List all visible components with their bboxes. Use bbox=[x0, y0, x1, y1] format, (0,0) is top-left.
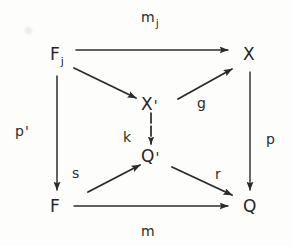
edge-label-m-base: m bbox=[141, 223, 155, 239]
node-X-prime: X' bbox=[141, 96, 158, 113]
edge-label-k-base: k bbox=[123, 129, 131, 145]
node-X-prime-base: X bbox=[141, 94, 153, 114]
arrow-r bbox=[172, 167, 232, 195]
node-X-base: X bbox=[243, 44, 255, 64]
node-F: F bbox=[50, 198, 60, 215]
edge-label-m: m bbox=[141, 224, 155, 238]
node-F-sub-j: Fj bbox=[50, 46, 64, 67]
edge-label-r-base: r bbox=[215, 166, 221, 182]
edge-label-mj: mj bbox=[141, 10, 159, 29]
node-Q: Q bbox=[243, 198, 256, 215]
node-X-prime-mark: ' bbox=[153, 97, 158, 113]
edge-label-p: p bbox=[266, 132, 275, 146]
edge-label-p-prime: p' bbox=[15, 124, 29, 138]
edge-label-s: s bbox=[72, 166, 79, 180]
arrow-fj-to-xprime bbox=[74, 68, 136, 98]
edge-label-mj-base: m bbox=[141, 9, 155, 25]
node-F-sub-j-base: F bbox=[50, 44, 60, 64]
arrow-s bbox=[88, 165, 140, 192]
node-Q-prime-base: Q bbox=[141, 146, 154, 166]
edge-label-p-prime-mark: ' bbox=[24, 123, 29, 139]
node-Q-prime: Q' bbox=[141, 148, 159, 165]
edge-label-g: g bbox=[197, 96, 206, 110]
edge-label-p-base: p bbox=[266, 131, 275, 147]
node-F-sub-j-subscript: j bbox=[60, 55, 64, 68]
edge-label-p-prime-base: p bbox=[15, 123, 24, 139]
edge-label-mj-subscript: j bbox=[155, 17, 159, 30]
edge-label-g-base: g bbox=[197, 95, 206, 111]
edge-label-k: k bbox=[123, 130, 131, 144]
node-Q-base: Q bbox=[243, 196, 256, 216]
node-X: X bbox=[243, 46, 255, 63]
node-Q-prime-mark: ' bbox=[154, 149, 159, 165]
commutative-diagram: Fj X X' Q' F Q mj p' g k p s r m bbox=[0, 0, 292, 246]
node-F-base: F bbox=[50, 196, 60, 216]
edge-label-r: r bbox=[215, 167, 221, 181]
edge-label-s-base: s bbox=[72, 165, 79, 181]
